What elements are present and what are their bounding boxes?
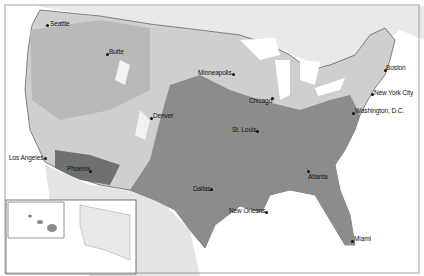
city-dot-los-angeles — [44, 157, 47, 160]
us-map: Seattle Butte Minneapolis Boston New Yor… — [0, 0, 424, 276]
city-label-atlanta: Atlanta — [308, 174, 328, 181]
city-label-st-louis: St. Louis — [232, 127, 256, 134]
city-dot-minneapolis — [232, 73, 235, 76]
city-label-butte: Butte — [109, 49, 124, 56]
city-label-boston: Boston — [386, 65, 406, 72]
city-label-new-york: New York City — [374, 90, 413, 97]
city-label-dallas: Dallas — [193, 186, 210, 193]
city-dot-st-louis — [256, 130, 259, 133]
hawaii-inset — [8, 202, 64, 238]
city-label-new-orleans: New Orleans — [229, 208, 265, 215]
city-label-phoenix: Phoenix — [67, 166, 90, 173]
city-label-los-angeles: Los Angeles — [9, 155, 43, 162]
city-label-seattle: Seattle — [50, 21, 70, 28]
hawaii-maui — [37, 220, 43, 224]
city-label-denver: Denver — [153, 113, 173, 120]
city-label-minneapolis: Minneapolis — [198, 70, 232, 77]
hawaii-oahu — [28, 215, 32, 218]
city-label-miami: Miami — [354, 236, 371, 243]
city-dot-seattle — [46, 24, 49, 27]
city-label-washington: Washington, D.C. — [355, 108, 404, 115]
hawaii-big-island — [47, 224, 57, 232]
city-label-chicago: Chicago — [249, 98, 272, 105]
